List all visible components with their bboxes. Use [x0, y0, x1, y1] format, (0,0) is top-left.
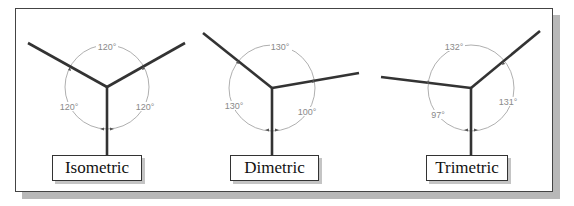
dimetric-label: Dimetric [230, 155, 319, 181]
trimetric-right-axis [471, 31, 540, 88]
axonometric-diagram: 120° 120° 120° 130° 130° 100° [0, 0, 574, 206]
isometric-right-axis [107, 43, 185, 87]
trimetric-angle-top: 132° [445, 42, 464, 52]
trimetric-angle-right: 131° [499, 97, 518, 107]
trimetric-left-axis [381, 77, 471, 88]
isometric-left-axis [28, 43, 107, 87]
trimetric-axes: 132° 97° 131° [381, 31, 540, 155]
isometric-angle-top: 120° [98, 42, 117, 52]
isometric-angle-left: 120° [60, 102, 79, 112]
dimetric-side-arrows [236, 60, 315, 83]
dimetric-angle-top: 130° [271, 42, 290, 52]
dimetric-axes: 130° 130° 100° [203, 33, 359, 155]
trimetric-angle-left: 97° [431, 110, 445, 120]
trimetric-label: Trimetric [426, 155, 508, 181]
dimetric-angle-right: 100° [298, 107, 317, 117]
dimetric-left-axis [203, 33, 272, 88]
isometric-axes: 120° 120° 120° [28, 42, 185, 155]
isometric-angle-right: 120° [136, 102, 155, 112]
dimetric-angle-left: 130° [225, 101, 244, 111]
isometric-label: Isometric [52, 155, 142, 181]
trimetric-side-arrows [427, 61, 506, 84]
dimetric-right-axis [272, 73, 359, 88]
